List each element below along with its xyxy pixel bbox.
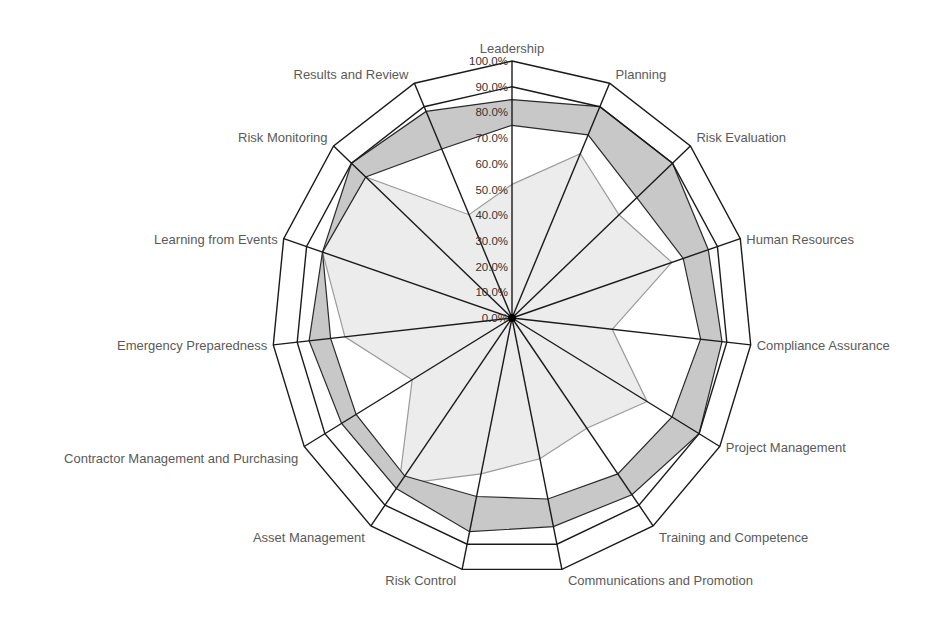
tick-label: 40.0%: [475, 209, 508, 221]
tick-label: 0.0%: [482, 312, 508, 324]
axis-label-training-and-competence: Training and Competence: [659, 530, 808, 545]
axis-label-compliance-assurance: Compliance Assurance: [757, 338, 890, 353]
axis-label-project-management: Project Management: [726, 440, 846, 455]
tick-label: 20.0%: [475, 261, 508, 273]
axis-label-communications-and-promotion: Communications and Promotion: [568, 573, 753, 588]
tick-label: 30.0%: [475, 235, 508, 247]
axis-label-leadership: Leadership: [480, 41, 544, 56]
center-point: [508, 314, 516, 322]
axis-label-results-and-review: Results and Review: [294, 67, 409, 82]
tick-label: 50.0%: [475, 184, 508, 196]
axis-label-contractor-management-and-purchasing: Contractor Management and Purchasing: [64, 451, 298, 466]
tick-label: 70.0%: [475, 132, 508, 144]
axis-label-learning-from-events: Learning from Events: [154, 232, 278, 247]
axis-label-risk-evaluation: Risk Evaluation: [696, 130, 786, 145]
tick-label: 100.0%: [469, 55, 508, 67]
tick-label: 80.0%: [475, 106, 508, 118]
axis-label-risk-monitoring: Risk Monitoring: [238, 130, 328, 145]
axis-label-human-resources: Human Resources: [746, 232, 854, 247]
tick-label: 10.0%: [475, 286, 508, 298]
tick-label: 90.0%: [475, 81, 508, 93]
radar-chart: 0.0%10.0%20.0%30.0%40.0%50.0%60.0%70.0%8…: [0, 0, 945, 617]
axis-label-emergency-preparedness: Emergency Preparedness: [117, 338, 268, 353]
axis-label-risk-control: Risk Control: [385, 573, 456, 588]
axis-label-planning: Planning: [616, 67, 667, 82]
tick-label: 60.0%: [475, 158, 508, 170]
axis-label-asset-management: Asset Management: [253, 530, 365, 545]
